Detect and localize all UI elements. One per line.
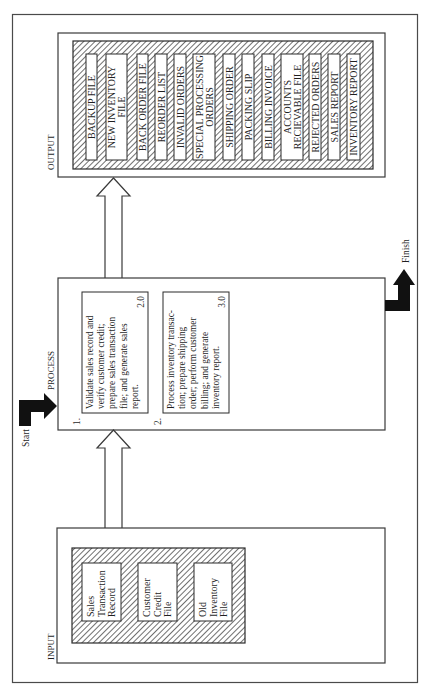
finish-arrow-icon: [385, 269, 415, 311]
start-arrow-icon: [19, 393, 57, 426]
process-step-text: billing; and generate: [200, 332, 210, 409]
input-item-label: Old: [197, 602, 208, 617]
output-item: BILLING INVOICE: [262, 54, 274, 160]
output-item-label: BACK ORDER FILE: [137, 63, 148, 151]
output-item-label: BILLING INVOICE: [263, 65, 274, 149]
output-item: SHIPPING ORDER: [223, 54, 235, 160]
input-item: SalesTransactionRecord: [82, 563, 121, 621]
input-section: INPUT SalesTransactionRecordCustomerCred…: [46, 528, 385, 663]
output-item-label: INVALID ORDERS: [175, 66, 186, 148]
output-item-label: PACKING SLIP: [243, 73, 254, 140]
process-step-number: 1.: [72, 418, 82, 425]
process-title: PROCESS: [46, 351, 56, 390]
output-item-label: ORDERS: [204, 87, 215, 126]
input-item-label: Sales: [85, 596, 96, 617]
start-label: Start: [21, 429, 31, 447]
process-step-text: Process inventory transac-: [166, 310, 176, 409]
output-item: ACCOUNTSRECIEVABLE FILE: [281, 54, 303, 160]
output-item-label: INVENTORY REPORT: [348, 58, 359, 155]
process-step-text: verify customer credit;: [96, 324, 106, 409]
input-item-label: File: [162, 601, 173, 617]
input-items: SalesTransactionRecordCustomerCreditFile…: [82, 563, 232, 621]
input-to-process-arrow: [97, 430, 130, 528]
input-title: INPUT: [46, 633, 56, 660]
input-item-label: Record: [106, 588, 117, 617]
output-items: BACKUP FILENEW INVENTORYFILEBACK ORDER F…: [86, 54, 360, 160]
process-step-ref: 3.0: [217, 296, 227, 308]
output-item: REJECTED ORDERS: [309, 54, 321, 160]
process-step-text: report.: [130, 384, 140, 409]
input-item: OldInventoryFile: [194, 563, 232, 621]
output-item-label: REJECTED ORDERS: [310, 62, 321, 153]
process-section: PROCESS 1.Validate sales record andverif…: [46, 278, 385, 430]
output-item: PACKING SLIP: [242, 54, 254, 160]
input-item-label: Customer: [141, 577, 152, 617]
output-item: BACKUP FILE: [86, 54, 97, 160]
process-step-text: Validate sales record and: [85, 315, 95, 409]
output-item: INVALID ORDERS: [174, 54, 186, 160]
process-step-text: order; perform customer: [188, 316, 198, 409]
output-item: BACK ORDER FILE: [137, 54, 148, 160]
output-item: SPECIAL PROCESSINGORDERS: [193, 54, 215, 160]
process-to-output-arrow: [97, 178, 130, 278]
process-step-ref: 2.0: [136, 296, 146, 308]
input-item-label: Inventory: [208, 578, 219, 617]
process-step: 2.Process inventory transac-tion; prepar…: [153, 292, 229, 425]
input-item-label: Transaction: [96, 570, 107, 617]
process-step-text: inventory report.: [211, 346, 221, 409]
input-item: CustomerCreditFile: [138, 563, 177, 621]
finish-arrow: Finish: [385, 239, 415, 311]
output-item: REORDER LIST: [155, 54, 167, 160]
finish-label: Finish: [401, 239, 411, 263]
output-title: OUTPUT: [46, 134, 56, 170]
output-item-label: REORDER LIST: [156, 72, 167, 142]
output-item-label: SALES REPORT: [329, 72, 340, 143]
process-step: 1.Validate sales record andverify custom…: [72, 292, 148, 425]
output-item-label: BACKUP FILE: [86, 75, 97, 139]
process-step-text: prepare sales transaction: [107, 317, 117, 409]
output-item: SALES REPORT: [328, 54, 340, 160]
output-item-label: SHIPPING ORDER: [224, 66, 235, 148]
start-arrow: Start: [19, 393, 57, 447]
process-step-text: tion; prepare shipping: [177, 326, 187, 409]
process-step-text: file; and generate sales: [119, 323, 129, 409]
input-item-label: File: [218, 601, 229, 617]
input-item-label: Credit: [152, 592, 163, 617]
output-item-label: RECIEVABLE FILE: [292, 65, 303, 150]
ipo-diagram: OUTPUT BACKUP FILENEW INVENTORYFILEBACK …: [0, 0, 430, 686]
process-step-number: 2.: [153, 418, 163, 425]
output-item-label: FILE: [116, 96, 127, 117]
output-section: OUTPUT BACKUP FILENEW INVENTORYFILEBACK …: [46, 33, 385, 177]
output-item: INVENTORY REPORT: [347, 54, 360, 160]
output-item: NEW INVENTORYFILE: [106, 54, 127, 160]
